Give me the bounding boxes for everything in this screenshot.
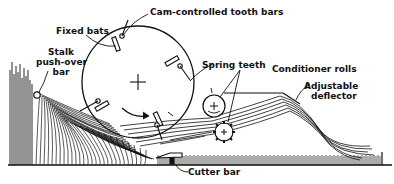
reel-drum	[82, 26, 194, 138]
label-stalk-line3: bar	[36, 67, 86, 77]
lower-conditioner-roll	[213, 121, 235, 143]
harvester-diagram: Cam-controlled tooth bars Fixed bats Sta…	[0, 0, 394, 184]
label-spring-teeth: Spring teeth	[202, 60, 266, 70]
bent-stalks	[36, 94, 154, 165]
label-deflector: deflector	[311, 91, 357, 101]
label-stalk-line1: Stalk	[36, 47, 86, 57]
standing-stalks	[10, 62, 32, 165]
label-stalk-line2: push-over	[36, 57, 86, 67]
label-adjustable: Adjustable	[304, 81, 358, 91]
label-cutter-bar: Cutter bar	[188, 167, 240, 177]
stalk-pushover-bar	[34, 92, 40, 98]
label-cam-controlled-tooth-bars: Cam-controlled tooth bars	[150, 7, 283, 17]
label-fixed-bats: Fixed bats	[56, 26, 109, 36]
label-conditioner-rolls: Conditioner rolls	[272, 64, 357, 74]
stubble	[158, 152, 382, 165]
